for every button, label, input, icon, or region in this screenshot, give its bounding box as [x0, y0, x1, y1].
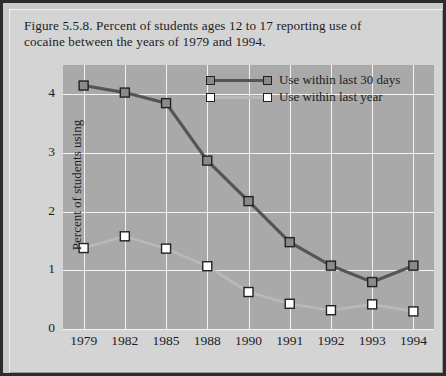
- legend-item-0: Use within last 30 days: [206, 71, 400, 88]
- data-point-s0-1991: [285, 238, 294, 247]
- y-axis-tick-0: 0: [25, 320, 55, 336]
- y-axis-title: Percent of students using: [69, 85, 85, 285]
- figure-card: Figure 5.5.8. Percent of students ages 1…: [9, 9, 443, 373]
- data-point-s1-1994: [409, 307, 418, 316]
- caption-line-1: Figure 5.5.8. Percent of students ages 1…: [24, 18, 438, 34]
- data-point-s1-1985: [162, 244, 171, 253]
- legend-marker-end-1: [263, 93, 272, 102]
- y-axis-tick-4: 4: [25, 85, 55, 101]
- y-axis-tick-3: 3: [25, 144, 55, 160]
- series-line-1: [84, 236, 414, 311]
- data-point-s0-1988: [203, 156, 212, 165]
- caption-line-2: cocaine between the years of 1979 and 19…: [24, 34, 438, 50]
- chart-plot-area: 0123419791982198519881990199119921993199…: [63, 65, 434, 329]
- gridline-horizontal-0: [63, 329, 434, 330]
- data-point-s0-1985: [162, 99, 171, 108]
- y-axis-tick-2: 2: [25, 203, 55, 219]
- data-point-s0-1994: [409, 261, 418, 270]
- data-point-s1-1988: [203, 262, 212, 271]
- series-line-0: [84, 86, 414, 283]
- figure-caption: Figure 5.5.8. Percent of students ages 1…: [24, 18, 438, 49]
- legend-marker-start-0: [206, 76, 215, 85]
- chart-legend: Use within last 30 days Use within last …: [206, 71, 400, 105]
- data-point-s0-1990: [244, 197, 253, 206]
- legend-swatch-0: [206, 73, 272, 87]
- data-point-s0-1982: [120, 88, 129, 97]
- figure-frame: Figure 5.5.8. Percent of students ages 1…: [0, 0, 446, 376]
- legend-line-0: [210, 79, 268, 82]
- legend-marker-start-1: [206, 93, 215, 102]
- data-point-s1-1992: [326, 306, 335, 315]
- legend-item-1: Use within last year: [206, 88, 400, 105]
- data-point-s0-1993: [368, 278, 377, 287]
- legend-line-1: [210, 96, 268, 99]
- data-point-s0-1992: [326, 261, 335, 270]
- data-point-s1-1991: [285, 299, 294, 308]
- data-point-s1-1990: [244, 288, 253, 297]
- data-point-s1-1982: [120, 232, 129, 241]
- x-axis-tick-1994: 1994: [383, 333, 443, 349]
- legend-marker-end-0: [263, 76, 272, 85]
- legend-label-0: Use within last 30 days: [279, 72, 400, 88]
- legend-swatch-1: [206, 90, 272, 104]
- y-axis-tick-1: 1: [25, 261, 55, 277]
- legend-label-1: Use within last year: [279, 89, 383, 105]
- data-point-s1-1993: [368, 300, 377, 309]
